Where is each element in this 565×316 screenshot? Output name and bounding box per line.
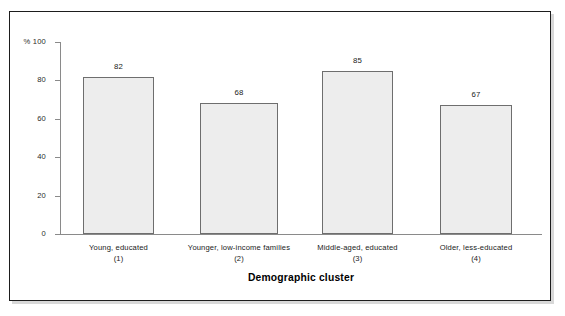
category-number: (2)	[176, 254, 302, 265]
x-axis-category-label: Young, educated(1)	[56, 243, 182, 264]
category-number: (3)	[295, 254, 421, 265]
y-tick-label: 0	[0, 230, 46, 238]
category-name: Younger, low-income families	[188, 243, 290, 252]
category-number: (4)	[413, 254, 539, 265]
plot-area: % 100806040200 82688567 Young, educated(…	[0, 0, 565, 316]
y-tick-mark	[55, 157, 60, 158]
bar	[322, 71, 393, 234]
y-tick-label: % 100	[0, 38, 46, 46]
bar-value-label: 85	[322, 57, 393, 65]
y-tick-mark	[55, 234, 60, 235]
y-tick-mark	[55, 42, 60, 43]
category-name: Middle-aged, educated	[317, 243, 397, 252]
figure-canvas: % 100806040200 82688567 Young, educated(…	[0, 0, 565, 316]
bar	[200, 103, 278, 234]
bar-value-label: 67	[440, 91, 512, 99]
x-axis-line	[60, 234, 542, 235]
y-tick-label: 80	[0, 76, 46, 84]
y-tick-label: 20	[0, 192, 46, 200]
y-tick-mark	[55, 196, 60, 197]
category-number: (1)	[56, 254, 182, 265]
x-axis-category-label: Middle-aged, educated(3)	[295, 243, 421, 264]
x-axis-category-label: Younger, low-income families(2)	[176, 243, 302, 264]
x-axis-category-label: Older, less-educated(4)	[413, 243, 539, 264]
category-name: Young, educated	[89, 243, 148, 252]
y-tick-mark	[55, 119, 60, 120]
bar-value-label: 68	[200, 89, 278, 97]
bar	[440, 105, 512, 234]
category-name: Older, less-educated	[440, 243, 513, 252]
bar	[83, 77, 154, 234]
y-tick-label: 60	[0, 115, 46, 123]
y-tick-label: 40	[0, 153, 46, 161]
y-tick-mark	[55, 80, 60, 81]
x-axis-title: Demographic cluster	[60, 272, 542, 283]
bar-value-label: 82	[83, 63, 154, 71]
y-axis-line	[60, 42, 61, 235]
